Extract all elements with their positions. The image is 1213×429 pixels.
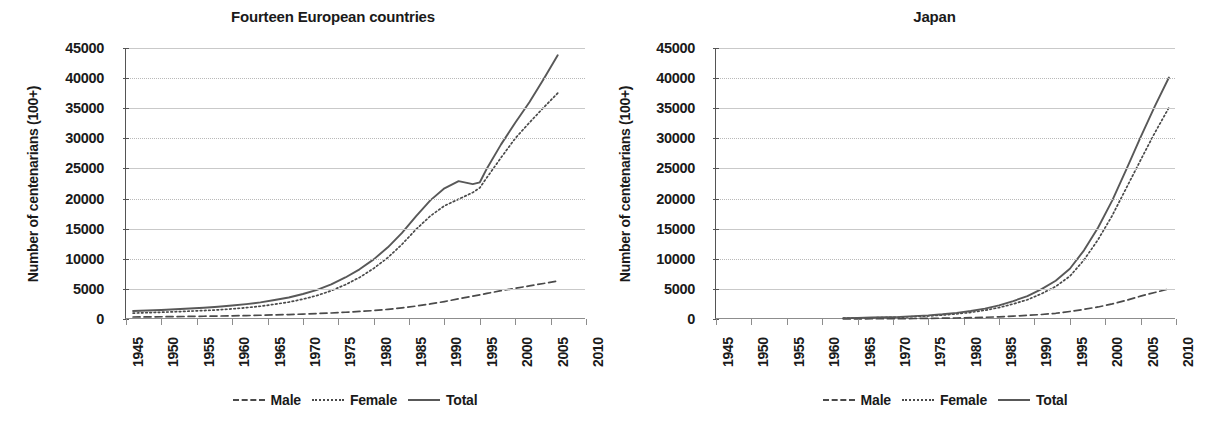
y-axis-tick-label: 20000 (65, 191, 104, 207)
y-axis-tick-mark (123, 108, 129, 109)
legend-label-total: Total (446, 392, 477, 408)
y-axis-tick-label: 25000 (656, 160, 695, 176)
legend-entry-total: Total (408, 392, 477, 408)
x-axis-tick-label: 1960 (236, 337, 252, 367)
y-axis-tick-mark (713, 229, 719, 230)
figure-container: Fourteen European countries Number of ce… (0, 0, 1213, 429)
legend-label-total-japan: Total (1036, 392, 1067, 408)
x-axis-tick-label: 1975 (932, 337, 948, 367)
x-axis-tick-label: 2010 (590, 337, 606, 367)
y-axis-tick-mark (123, 48, 129, 49)
y-axis-tick-label: 40000 (656, 70, 695, 86)
gridline (716, 48, 1175, 49)
legend-europe: Male Female Total (125, 388, 585, 412)
legend-line-male-icon (823, 399, 855, 401)
legend-entry-male-japan: Male (823, 392, 891, 408)
y-axis-tick-mark (123, 168, 129, 169)
y-axis-tick-label: 25000 (65, 160, 104, 176)
series-lines-japan (716, 48, 1176, 319)
gridline (716, 108, 1175, 109)
gridline (716, 199, 1175, 200)
x-axis-tick-label: 2010 (1180, 337, 1196, 367)
y-axis-label-text-japan: Number of centenarians (100+) (617, 86, 633, 282)
gridline (126, 108, 585, 109)
y-axis-tick-mark (713, 289, 719, 290)
y-axis-tick-label: 35000 (65, 100, 104, 116)
y-axis-label-japan: Number of centenarians (100+) (614, 48, 636, 320)
gridline (716, 168, 1175, 169)
y-axis-tick-label: 20000 (656, 191, 695, 207)
chart-title-japan: Japan (606, 8, 1213, 25)
y-axis-tick-mark (713, 168, 719, 169)
x-axis-tick-label: 2005 (1145, 337, 1161, 367)
x-axis-tick-label: 1995 (484, 337, 500, 367)
plot-area-europe (125, 48, 585, 319)
y-axis-tick-label: 10000 (656, 251, 695, 267)
gridline (126, 138, 585, 139)
gridline (126, 168, 585, 169)
legend-line-total-icon (998, 399, 1030, 401)
gridline (716, 289, 1175, 290)
y-axis-tick-label: 40000 (65, 70, 104, 86)
y-axis-tick-label: 15000 (656, 221, 695, 237)
plot-area-japan (715, 48, 1175, 319)
y-axis-tick-mark (123, 289, 129, 290)
gridline (716, 138, 1175, 139)
gridline (126, 78, 585, 79)
y-axis-tick-mark (713, 78, 719, 79)
y-axis-tick-mark (123, 229, 129, 230)
legend-entry-female-japan: Female (902, 392, 987, 408)
y-axis-tick-mark (123, 138, 129, 139)
chart-title-europe: Fourteen European countries (0, 8, 606, 25)
legend-entry-male: Male (233, 392, 301, 408)
y-axis-tick-mark (123, 259, 129, 260)
legend-line-female-icon (902, 399, 934, 401)
gridline (126, 229, 585, 230)
y-axis-tick-label: 30000 (656, 130, 695, 146)
y-axis-tick-label: 30000 (65, 130, 104, 146)
x-axis-tick-label: 1990 (1038, 337, 1054, 367)
x-axis-tick-labels-europe: 1945195019551960196519701975198019851990… (125, 325, 585, 385)
x-axis-tick-mark (586, 319, 587, 325)
x-axis-tick-label: 1945 (130, 337, 146, 367)
y-axis-tick-label: 45000 (656, 40, 695, 56)
y-axis-tick-label: 5000 (664, 281, 695, 297)
x-axis-tick-label: 1990 (448, 337, 464, 367)
gridline (126, 259, 585, 260)
x-axis-tick-label: 1970 (307, 337, 323, 367)
y-axis-tick-label: 0 (687, 311, 695, 327)
x-axis-tick-label: 1955 (201, 337, 217, 367)
x-axis-tick-label: 1950 (755, 337, 771, 367)
x-axis-tick-label: 1995 (1074, 337, 1090, 367)
y-axis-tick-label: 10000 (65, 251, 104, 267)
legend-label-female-japan: Female (940, 392, 987, 408)
x-axis-tick-label: 1985 (1003, 337, 1019, 367)
y-axis-tick-label: 0 (96, 311, 104, 327)
y-axis-tick-mark (713, 48, 719, 49)
chart-panel-europe: Fourteen European countries Number of ce… (0, 0, 606, 429)
legend-label-female: Female (350, 392, 397, 408)
x-axis-tick-label: 1980 (968, 337, 984, 367)
series-lines-europe (126, 48, 586, 319)
x-axis-tick-label: 1965 (862, 337, 878, 367)
x-axis-tick-label: 1945 (720, 337, 736, 367)
x-axis-tick-label: 1960 (826, 337, 842, 367)
legend-line-total-icon (408, 399, 440, 401)
y-axis-tick-mark (123, 199, 129, 200)
y-axis-tick-labels-japan: 0500010000150002000025000300003500040000… (641, 48, 703, 319)
x-axis-tick-label: 1970 (897, 337, 913, 367)
gridline (716, 78, 1175, 79)
x-axis-tick-label: 1965 (272, 337, 288, 367)
y-axis-tick-label: 5000 (73, 281, 104, 297)
x-axis-tick-label: 1980 (378, 337, 394, 367)
gridline (716, 259, 1175, 260)
x-axis-tick-label: 2000 (1109, 337, 1125, 367)
series-line-total (133, 55, 558, 311)
legend-entry-female: Female (312, 392, 397, 408)
legend-line-male-icon (233, 399, 265, 401)
y-axis-tick-mark (713, 138, 719, 139)
legend-japan: Male Female Total (715, 388, 1175, 412)
y-axis-tick-label: 45000 (65, 40, 104, 56)
gridline (716, 229, 1175, 230)
x-axis-tick-label: 1985 (413, 337, 429, 367)
